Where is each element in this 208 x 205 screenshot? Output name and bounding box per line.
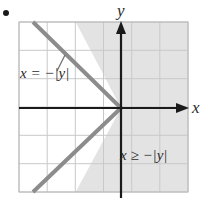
y-axis-label: y — [117, 2, 125, 19]
x-axis-label: x — [192, 99, 200, 116]
inequality-annotation: x ≥ −|y| — [120, 148, 167, 163]
graph-figure: y x x = −|y| x ≥ −|y| — [0, 0, 208, 205]
equation-annotation: x = −|y| — [20, 66, 69, 81]
coordinate-plane — [0, 0, 208, 205]
